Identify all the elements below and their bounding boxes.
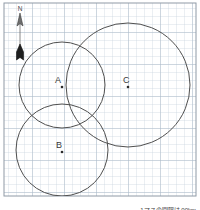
circle-label-a: A — [55, 75, 61, 85]
center-dot-a — [61, 86, 64, 89]
circle-label-c: C — [123, 75, 130, 85]
north-arrow-label: N — [18, 5, 23, 12]
map-canvas: A B C N — [0, 0, 200, 210]
grid-major — [4, 3, 196, 196]
caption-text: 1マスの間隔は 00km — [140, 206, 196, 210]
map-figure: A B C N 1マスの間隔は 00km — [0, 0, 200, 210]
caption: 1マスの間隔は 00km — [0, 198, 200, 210]
center-dot-b — [61, 151, 64, 154]
center-dot-c — [127, 86, 130, 89]
grid-layer — [4, 3, 196, 196]
circle-label-b: B — [56, 140, 62, 150]
